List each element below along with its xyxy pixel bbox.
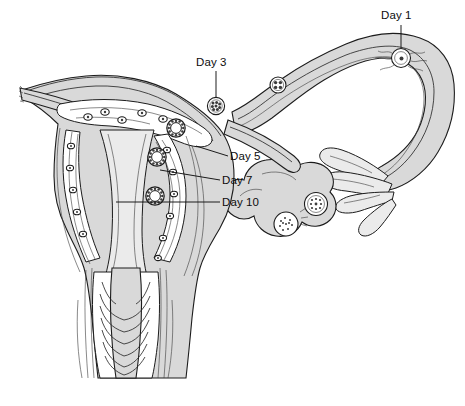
gland-icon: [138, 110, 146, 116]
gland-icon: [155, 255, 162, 260]
reproductive-tract-diagram: Day 1 Day 3 Day 5 Day 7 Day 10: [0, 0, 465, 406]
label-day3: Day 3: [196, 56, 227, 68]
label-day1: Day 1: [381, 9, 412, 21]
gland-icon: [159, 116, 167, 122]
gland-icon: [166, 213, 173, 219]
gland-icon: [79, 231, 86, 237]
embryo-blastocyst-day7: [148, 148, 166, 166]
gland-icon: [67, 143, 74, 149]
embryo-cleavage-4cell: [270, 77, 286, 93]
cervix: [85, 268, 167, 378]
gland-icon: [118, 117, 126, 123]
label-day10: Day 10: [222, 196, 259, 208]
gland-icon: [66, 165, 73, 171]
figure-root: Day 1 Day 3 Day 5 Day 7 Day 10: [0, 0, 465, 406]
gland-icon: [170, 191, 177, 197]
label-day5: Day 5: [230, 150, 261, 162]
embryo-morula-day3: [207, 97, 224, 114]
mature-follicle-icon: [305, 193, 328, 216]
gland-icon: [101, 109, 109, 115]
corpus-luteum-icon: [274, 212, 298, 236]
embryo-blastocyst-day5: [167, 119, 185, 137]
label-day7: Day 7: [222, 174, 253, 186]
gland-icon: [84, 114, 92, 120]
gland-icon: [69, 187, 76, 193]
fimbriae: [320, 148, 396, 236]
gland-icon: [159, 235, 166, 241]
gland-icon: [73, 209, 80, 215]
